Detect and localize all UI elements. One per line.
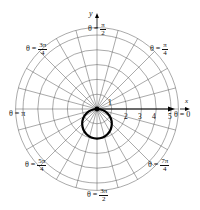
y-axis-label: y <box>89 10 93 18</box>
fraction: π4 <box>162 42 168 57</box>
fraction: 3π4 <box>38 42 47 57</box>
denominator: 4 <box>160 166 169 173</box>
fraction: 5π4 <box>37 158 46 173</box>
grid-radial-line <box>97 109 176 130</box>
eq-text: θ = <box>25 160 35 169</box>
angle-label-3pi-over-2: θ = 3π2 <box>87 188 108 203</box>
eq-text: θ = <box>148 160 158 169</box>
angle-label-pi-over-2: θ = π2 <box>88 22 106 37</box>
grid-radial-line <box>76 109 97 188</box>
fraction: 3π2 <box>99 188 108 203</box>
radial-tick-2: 2 <box>124 112 128 121</box>
grid-radial-line <box>97 51 155 109</box>
eq-text: θ = <box>150 44 160 53</box>
grid-radial-line <box>27 109 97 150</box>
denominator: 4 <box>38 50 47 57</box>
fraction: π2 <box>100 22 106 37</box>
denominator: 4 <box>37 166 46 173</box>
denominator: 2 <box>99 196 108 203</box>
x-axis-label: x <box>185 98 188 105</box>
angle-label-pi-over-4: θ = π4 <box>150 42 168 57</box>
grid-radial-line <box>18 109 97 130</box>
radial-tick-3: 3 <box>138 112 142 121</box>
angle-label-7pi-over-4: θ = 7π4 <box>148 158 169 173</box>
grid-radial-line <box>97 109 167 150</box>
grid-radial-line <box>97 39 138 109</box>
denominator: 4 <box>162 50 168 57</box>
grid-radial-line <box>97 109 118 188</box>
angle-label-pi: θ = π <box>9 110 25 118</box>
denominator: 2 <box>100 30 106 37</box>
grid-radial-line <box>76 30 97 109</box>
y-axis-arrow-icon <box>95 13 99 18</box>
grid-radial-line <box>39 51 97 109</box>
eq-text: θ = <box>87 190 97 199</box>
grid-radial-line <box>18 88 97 109</box>
angle-label-0: θ = 0 <box>174 111 190 119</box>
fraction: 7π4 <box>160 158 169 173</box>
angle-label-5pi-over-4: θ = 5π4 <box>25 158 46 173</box>
angle-label-3pi-over-4: θ = 3π4 <box>26 42 47 57</box>
grid-radial-line <box>27 68 97 109</box>
grid-radial-line <box>39 109 97 167</box>
radial-tick-1: 1 <box>108 98 112 107</box>
grid-radial-line <box>97 109 138 179</box>
grid-radial-line <box>56 109 97 179</box>
grid-radial-line <box>56 39 97 109</box>
eq-text: θ = <box>26 44 36 53</box>
radial-tick-4: 4 <box>152 112 156 121</box>
radial-tick-5: 5 <box>168 112 172 121</box>
eq-text: θ = <box>88 24 98 33</box>
